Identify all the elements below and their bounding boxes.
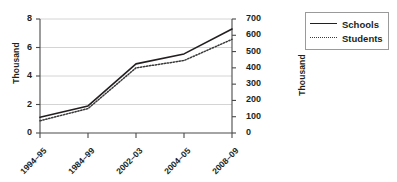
- left-tick-label: 0: [18, 127, 32, 137]
- right-tick-label: 100: [246, 111, 261, 121]
- left-tick-label: 4: [18, 70, 32, 80]
- legend-line-solid-icon: [310, 19, 337, 29]
- legend-label-students: Students: [342, 33, 383, 44]
- right-axis-title: Thousand: [297, 45, 307, 105]
- right-tick-label: 300: [246, 78, 261, 88]
- left-tick-label: 6: [18, 42, 32, 52]
- legend-label-schools: Schools: [342, 19, 379, 30]
- right-tick-label: 700: [246, 13, 261, 23]
- legend-line-dotted-icon: [310, 33, 337, 43]
- chart-legend: Schools Students: [305, 12, 389, 50]
- right-tick-label: 200: [246, 94, 261, 104]
- legend-item-schools: Schools: [310, 17, 385, 31]
- legend-item-students: Students: [310, 31, 385, 45]
- right-tick-label: 400: [246, 62, 261, 72]
- series-line-schools: [40, 29, 232, 117]
- left-tick-label: 2: [18, 99, 32, 109]
- series-line-students: [40, 39, 232, 120]
- right-tick-label: 500: [246, 46, 261, 56]
- line-chart: Thousand Thousand 02468 0100200300400500…: [0, 0, 397, 182]
- right-tick-label: 600: [246, 29, 261, 39]
- left-tick-label: 8: [18, 13, 32, 23]
- right-tick-label: 0: [246, 127, 251, 137]
